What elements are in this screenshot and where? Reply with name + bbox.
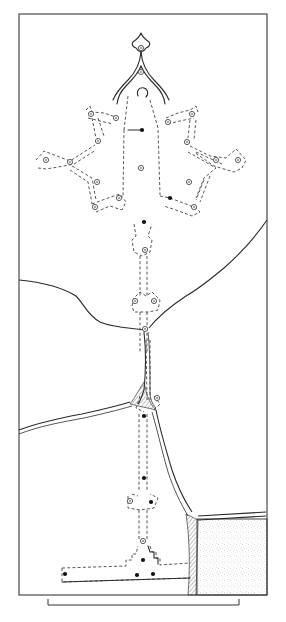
ring-center-dot <box>144 249 146 251</box>
crack-right-lower <box>156 410 192 512</box>
arch-inner-right <box>141 66 165 104</box>
crack-right-upper <box>149 220 267 328</box>
burial-base-line <box>62 578 190 582</box>
filled-post-hole-icon <box>63 572 67 576</box>
filled-post-hole-icon <box>151 572 155 576</box>
burial-chamber <box>62 546 190 582</box>
stippled-rock-region <box>197 519 267 595</box>
filled-post-hole-icon <box>142 414 146 418</box>
lobe-left-upper-arm <box>92 118 104 138</box>
ring-center-dot <box>118 197 120 199</box>
ring-center-dot <box>156 397 158 399</box>
hatched-fill <box>186 514 198 595</box>
ring-center-dot <box>140 47 142 49</box>
filled-post-hole-icon <box>135 573 139 577</box>
arch-outer-right <box>141 52 169 100</box>
filled-post-hole-icon <box>142 220 146 224</box>
dressing-room-outline <box>113 33 169 104</box>
rock-cracks <box>19 220 267 520</box>
lobe-left-lower-arm <box>70 166 96 204</box>
plan-frame <box>19 14 267 595</box>
ring-center-dot <box>97 140 99 142</box>
lobe-left <box>36 145 96 169</box>
filled-post-hole-icon <box>168 196 172 200</box>
arch-outer-left <box>113 52 141 100</box>
ring-center-dot <box>129 500 131 502</box>
ring-center-dot <box>96 181 98 183</box>
ring-center-dot <box>69 161 71 163</box>
filled-post-hole-icon <box>149 500 153 504</box>
stippled-block <box>197 519 267 595</box>
burial-outline <box>62 546 190 582</box>
ring-center-dot <box>237 159 239 161</box>
ring-center-dot <box>191 113 193 115</box>
post-hole-markers <box>43 45 240 577</box>
crack-left-lower-b <box>19 406 132 434</box>
central-hall <box>123 96 160 196</box>
ring-center-dot <box>115 117 117 119</box>
crack-left-lower <box>19 402 130 430</box>
crack-left-upper <box>19 280 144 330</box>
ring-center-dot <box>142 540 144 542</box>
filled-post-hole-icon <box>140 128 144 132</box>
site-plan <box>0 0 286 622</box>
shaft-upper-path <box>132 224 152 296</box>
ring-center-dot <box>186 141 188 143</box>
filled-post-hole-icon <box>142 476 146 480</box>
ring-center-dot <box>193 206 195 208</box>
keyhole <box>137 88 147 97</box>
stepped-edge <box>148 546 158 564</box>
ring-center-dot <box>45 159 47 161</box>
lobe-right-upper-arm <box>188 120 196 140</box>
outer-frame <box>19 14 267 595</box>
ring-center-dot <box>94 206 96 208</box>
ring-center-dot <box>90 113 92 115</box>
ring-center-dot <box>140 167 142 169</box>
lobe-right-lower-arm <box>196 176 210 202</box>
hatched-regions <box>130 382 198 595</box>
filled-post-hole-icon <box>141 558 145 562</box>
ring-center-dot <box>134 300 136 302</box>
ring-center-dot <box>140 71 142 73</box>
scale-bar-line <box>48 599 239 605</box>
arch-inner-left <box>117 66 141 104</box>
ring-center-dot <box>153 300 155 302</box>
central-hall-walls <box>123 96 160 196</box>
shaft-post-shaft <box>139 510 147 540</box>
lobe-right <box>188 146 246 198</box>
scale-bar <box>48 599 239 605</box>
ring-center-dot <box>188 181 190 183</box>
hatched-fill <box>130 382 156 410</box>
ring-center-dot <box>144 328 146 330</box>
ring-center-dot <box>167 121 169 123</box>
ring-center-dot <box>215 159 217 161</box>
